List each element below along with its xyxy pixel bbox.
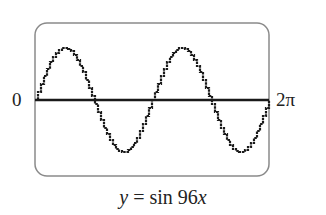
equation-caption: y = sin 96x [0, 186, 326, 209]
caption-eq: = sin 96 [128, 186, 198, 208]
x-max-label: 2π [276, 90, 295, 109]
x-min-label: 0 [12, 90, 22, 109]
caption-y: y [119, 186, 128, 208]
caption-x: x [198, 186, 207, 208]
